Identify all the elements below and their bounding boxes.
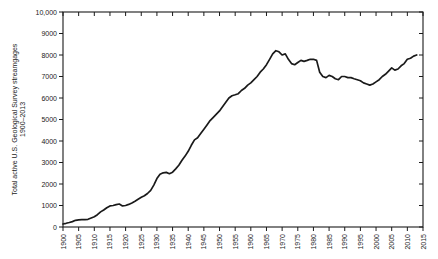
x-tick-label: 2005 (388, 234, 395, 250)
y-tick-label: 9000 (41, 30, 57, 37)
x-tick-label: 1960 (247, 234, 254, 250)
y-tick-label: 7000 (41, 73, 57, 80)
x-tick-label: 2010 (404, 234, 411, 250)
x-tick-label: 2000 (373, 234, 380, 250)
x-tick-label: 1935 (169, 234, 176, 250)
y-tick-label: 1000 (41, 202, 57, 209)
y-tick-label: 5000 (41, 116, 57, 123)
x-tick-label: 1945 (200, 234, 207, 250)
y-axis-title: Total active U.S. Geological Survey stre… (11, 43, 26, 195)
y-tick-label: 3000 (41, 159, 57, 166)
x-tick-label: 1970 (279, 234, 286, 250)
x-tick-label: 1905 (75, 234, 82, 250)
x-tick-label: 1915 (106, 234, 113, 250)
chart-figure: 1900190519101915192019251930193519401945… (0, 0, 438, 259)
x-tick-label: 1995 (357, 234, 364, 250)
x-tick-label: 1985 (326, 234, 333, 250)
x-tick-label: 1900 (60, 234, 67, 250)
x-tick-label: 1920 (122, 234, 129, 250)
x-tick-label: 1940 (185, 234, 192, 250)
y-tick-label: 10,000 (36, 9, 58, 16)
x-tick-label: 1980 (310, 234, 317, 250)
y-tick-label: 6000 (41, 95, 57, 102)
x-tick-label: 1965 (263, 234, 270, 250)
x-tick-label: 1990 (341, 234, 348, 250)
streamgage-line-chart: 1900190519101915192019251930193519401945… (0, 0, 438, 259)
y-tick-label: 4000 (41, 138, 57, 145)
x-tick-label: 1925 (138, 234, 145, 250)
x-tick-label: 1910 (91, 234, 98, 250)
x-tick-label: 1930 (153, 234, 160, 250)
x-tick-label: 1975 (294, 234, 301, 250)
plot-frame (63, 12, 423, 227)
x-tick-label: 2015 (420, 234, 427, 250)
y-tick-label: 2000 (41, 181, 57, 188)
y-tick-label: 8000 (41, 52, 57, 59)
data-line (63, 51, 417, 224)
x-tick-label: 1950 (216, 234, 223, 250)
y-tick-label: 0 (53, 224, 57, 231)
x-tick-label: 1955 (232, 234, 239, 250)
